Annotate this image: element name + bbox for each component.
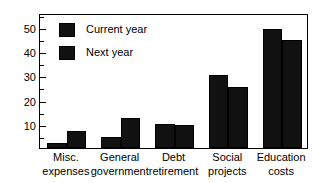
legend-item: Next year xyxy=(59,45,189,60)
bar xyxy=(175,125,195,149)
x-axis-category-labels: Misc. expensesGeneral governmentDebt ret… xyxy=(39,151,308,183)
y-axis-tick-label: 30 xyxy=(24,72,36,83)
bar xyxy=(209,75,229,148)
x-axis-category-label: General government xyxy=(91,151,149,178)
legend-swatch-icon xyxy=(59,23,75,37)
plot-area: 1020304050 Current yearNext year xyxy=(39,14,308,149)
y-axis-tick-label: 40 xyxy=(24,48,36,59)
bar xyxy=(282,40,302,148)
x-axis-category-label: Social projects xyxy=(208,151,247,178)
legend-label: Current year xyxy=(86,24,147,35)
chart-legend: Current yearNext year xyxy=(59,22,189,68)
legend-item: Current year xyxy=(59,22,189,37)
legend-label: Next year xyxy=(86,47,133,58)
bar xyxy=(263,29,283,148)
y-axis-tick-label: 10 xyxy=(24,120,36,131)
x-axis-category-label: Debt retirement xyxy=(149,151,199,178)
bar xyxy=(121,118,141,148)
x-axis-category-label: Misc. expenses xyxy=(42,151,89,178)
bar-chart-figure: 1020304050 Current yearNext year Misc. e… xyxy=(0,0,321,183)
bar xyxy=(67,131,87,148)
bar xyxy=(47,143,67,148)
bar xyxy=(228,87,248,148)
legend-swatch-icon xyxy=(59,46,75,60)
bar xyxy=(101,137,121,148)
y-axis-tick-label: 20 xyxy=(24,96,36,107)
bar xyxy=(155,124,175,148)
x-axis-category-label: Education costs xyxy=(257,151,306,178)
y-axis-tick-label: 50 xyxy=(24,23,36,34)
